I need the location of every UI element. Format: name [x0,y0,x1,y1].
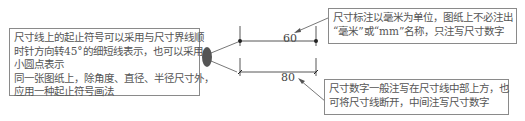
callout-text-line: “毫米”或“mm”名称，只注写尺寸数字 [333,25,512,39]
callout-text-line: 尺寸数字一般注写在尺寸线中部上方，也 [329,82,504,96]
callout-text-line: 同一张图纸上，除角度、直径、半径尺寸外， [14,72,195,86]
dimension-value-80: 80 [281,71,295,84]
callout-text-line: 尺寸线上的起止符号可以采用与尺寸界线顺 [14,31,195,45]
leader-line-to-tick [211,61,237,72]
callout-box-number-placement: 尺寸数字一般注写在尺寸线中部上方，也 可将尺寸线断开，中间注写尺寸数字 [324,79,509,115]
callout-text-line: 可将尺寸线断开，中间注写尺寸数字 [329,96,504,110]
callout-box-terminators: 尺寸线上的起止符号可以采用与尺寸界线顺 时针方向转45°的细短线表示，也可以采用… [9,28,200,96]
dot-terminator-left [238,39,242,43]
callout-box-units: 尺寸标注以毫米为单位，图纸上不必注出 “毫米”或“mm”名称，只注写尺寸数字 [328,8,517,44]
callout-text-line: 时针方向转45°的细短线表示，也可以采用 [14,45,195,59]
callout-text-line: 应用一种起止符号画法 [14,85,195,99]
leader-line-top-right [296,18,328,32]
callout-text-line: 尺寸标注以毫米为单位，图纸上不必注出 [333,11,512,25]
callout-text-line: 小圆点表示 [14,58,195,72]
dimension-value-60: 60 [283,32,297,45]
callout-anchor-ellipse [202,47,212,67]
dot-terminator-right [314,39,318,43]
leader-line-to-dot [211,42,238,53]
